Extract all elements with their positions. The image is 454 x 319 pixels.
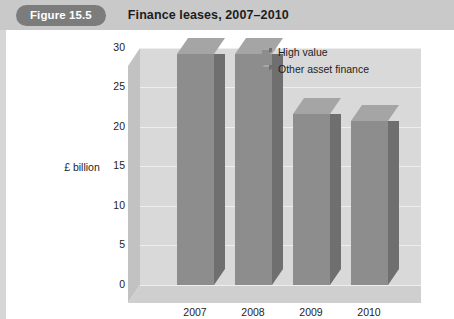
figure-number-badge: Figure 15.5	[16, 5, 106, 26]
plot-left-wall	[128, 48, 140, 303]
y-tick-25: 25	[95, 81, 125, 92]
y-axis-title: £ billion	[47, 161, 117, 173]
x-tick-2008: 2008	[228, 306, 278, 318]
bar-swatch-icon	[262, 65, 271, 73]
y-tick-0: 0	[95, 279, 125, 290]
x-tick-2010: 2010	[344, 306, 394, 318]
bar-2007	[177, 54, 214, 285]
bar-swatch-icon	[262, 48, 271, 56]
bar-2010-front	[351, 121, 388, 285]
bar-2010	[351, 121, 388, 285]
gridline-0	[140, 285, 421, 286]
plot-floor	[128, 285, 421, 303]
bar-2008-front	[235, 54, 272, 285]
chart-legend: High value Other asset finance	[262, 44, 412, 78]
bar-2009-front	[293, 114, 330, 285]
legend-label-other-asset-finance: Other asset finance	[278, 63, 369, 75]
bar-2010-side	[388, 121, 399, 285]
bar-2009-side	[330, 114, 341, 285]
y-tick-10: 10	[95, 200, 125, 211]
bar-2007-front	[177, 54, 214, 285]
y-tick-5: 5	[95, 239, 125, 250]
bar-2008	[235, 54, 272, 285]
y-axis-ticks: 30 25 20 15 10 5 0	[93, 30, 125, 319]
legend-label-high-value: High value	[278, 46, 328, 58]
y-tick-30: 30	[95, 42, 125, 53]
bar-chart: 30 25 20 15 10 5 0 £ billion 2007 2008 2…	[0, 30, 454, 319]
figure-title: Finance leases, 2007–2010	[128, 8, 289, 22]
bar-2007-side	[214, 54, 225, 285]
bar-2008-side	[272, 54, 283, 285]
x-tick-2007: 2007	[170, 306, 220, 318]
legend-item-high-value: High value	[262, 44, 412, 59]
x-tick-2009: 2009	[286, 306, 336, 318]
bar-2009	[293, 114, 330, 285]
figure-header: Figure 15.5 Finance leases, 2007–2010	[0, 0, 454, 30]
legend-item-other-asset-finance: Other asset finance	[262, 61, 412, 76]
y-tick-20: 20	[95, 121, 125, 132]
